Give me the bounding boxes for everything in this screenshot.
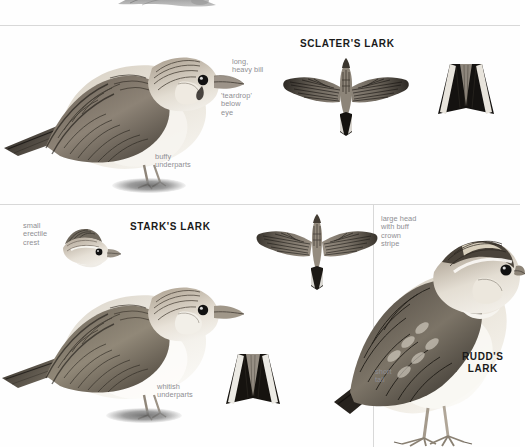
label-whitish-underparts: whitish underparts [157, 383, 217, 400]
label-large-head-buff-crown-stripe: large head with buff crown stripe [381, 215, 447, 249]
label-long-heavy-bill: long, heavy bill [232, 58, 292, 75]
sclaters-tail-detail [434, 62, 498, 124]
label-small-erectile-crest: small erectile crest [23, 222, 83, 247]
starks-tail-detail [222, 352, 284, 414]
sclaters-flight-figure [282, 58, 410, 148]
panel-divider-top [0, 25, 520, 26]
label-teardrop-below-eye: 'teardrop' below eye [221, 92, 281, 117]
starks-lark-heading: STARK'S LARK [130, 221, 211, 233]
label-short-tail: short tail [375, 368, 415, 385]
starks-ground-shadow [106, 408, 182, 423]
sclaters-ground-shadow [112, 178, 186, 193]
top-crop-bird-figure [112, 0, 222, 16]
sclaters-lark-heading: SCLATER'S LARK [300, 38, 394, 50]
panel-divider-middle [0, 204, 520, 205]
rudds-lark-heading: RUDD'S LARK [462, 351, 504, 375]
label-buffy-underparts: buffy underparts [155, 153, 215, 170]
